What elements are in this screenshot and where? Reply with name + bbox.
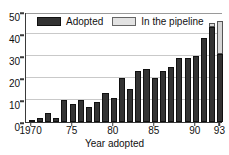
plot-area	[25, 13, 222, 123]
bar-segment-adopted	[61, 100, 67, 122]
bar-segment-adopted	[86, 107, 92, 122]
bar-1984	[143, 69, 149, 122]
bar-1992	[209, 23, 215, 122]
bar-1980	[111, 98, 117, 122]
bar-1978	[94, 102, 100, 122]
bar-segment-pipeline	[217, 21, 223, 54]
bar-1991	[201, 38, 207, 122]
bar-1974	[61, 100, 67, 122]
bar-segment-adopted	[102, 93, 108, 122]
y-axis-labels: 01020304050	[0, 13, 23, 123]
bar-segment-adopted	[127, 89, 133, 122]
y-tick-mark	[20, 122, 24, 124]
bar-segment-adopted	[135, 71, 141, 122]
bar-1993	[217, 21, 223, 122]
y-tick-mark	[20, 12, 24, 14]
x-tick-mark	[194, 123, 196, 126]
bar-segment-adopted	[176, 58, 182, 122]
x-tick-mark	[71, 123, 73, 126]
bar-1977	[86, 107, 92, 122]
bar-segment-adopted	[70, 104, 76, 122]
bar-1985	[152, 78, 158, 122]
bar-segment-adopted	[78, 100, 84, 122]
bar-1981	[119, 78, 125, 122]
bar-1972	[45, 113, 51, 122]
bar-segment-adopted	[160, 71, 166, 122]
bar-segment-adopted	[209, 27, 215, 122]
bar-1970	[29, 120, 35, 122]
y-tick-mark	[20, 56, 24, 58]
bar-segment-adopted	[201, 38, 207, 122]
bar-segment-adopted	[94, 102, 100, 122]
bar-1986	[160, 71, 166, 122]
bar-segment-adopted	[143, 69, 149, 122]
bar-1990	[193, 56, 199, 122]
bar-1973	[53, 118, 59, 122]
bar-segment-adopted	[37, 118, 43, 122]
x-tick-mark	[30, 123, 32, 126]
legend-item-adopted: Adopted	[37, 16, 103, 27]
bar-1979	[102, 93, 108, 122]
bar-segment-adopted	[217, 54, 223, 122]
x-axis-title: Year adopted	[0, 138, 229, 149]
x-tick-label: 80	[107, 125, 118, 136]
bar-segment-adopted	[168, 67, 174, 122]
bar-1976	[78, 100, 84, 122]
x-tick-label: 85	[148, 125, 159, 136]
bar-segment-adopted	[119, 78, 125, 122]
x-tick-mark	[219, 123, 221, 126]
y-tick-mark	[20, 78, 24, 80]
chart-container: 01020304050 19707580859093 Year adopted …	[0, 0, 229, 155]
legend-label-adopted: Adopted	[66, 16, 103, 27]
bar-segment-adopted	[53, 118, 59, 122]
bar-segment-adopted	[29, 120, 35, 122]
bar-series-group	[26, 13, 222, 122]
bar-1988	[176, 58, 182, 122]
x-tick-mark	[153, 123, 155, 126]
x-tick-mark	[112, 123, 114, 126]
bar-1983	[135, 71, 141, 122]
bar-segment-adopted	[45, 113, 51, 122]
x-axis-labels: 19707580859093	[25, 125, 222, 138]
bar-segment-adopted	[193, 56, 199, 122]
x-tick-label: 1970	[19, 125, 41, 136]
x-tick-label: 75	[66, 125, 77, 136]
x-tick-label: 90	[189, 125, 200, 136]
y-tick-mark	[20, 34, 24, 36]
bar-1989	[185, 58, 191, 122]
legend-swatch-pipeline-icon	[112, 17, 136, 26]
bar-segment-adopted	[152, 78, 158, 122]
bar-segment-adopted	[111, 98, 117, 122]
chart-legend: Adopted In the pipeline	[37, 16, 204, 27]
legend-item-pipeline: In the pipeline	[112, 16, 203, 27]
bar-1975	[70, 104, 76, 122]
bar-1971	[37, 118, 43, 122]
y-tick-mark	[20, 100, 24, 102]
x-tick-label: 93	[214, 125, 225, 136]
legend-label-pipeline: In the pipeline	[141, 16, 203, 27]
bar-segment-adopted	[185, 58, 191, 122]
bar-1982	[127, 89, 133, 122]
bar-1987	[168, 67, 174, 122]
legend-swatch-adopted-icon	[37, 17, 61, 26]
